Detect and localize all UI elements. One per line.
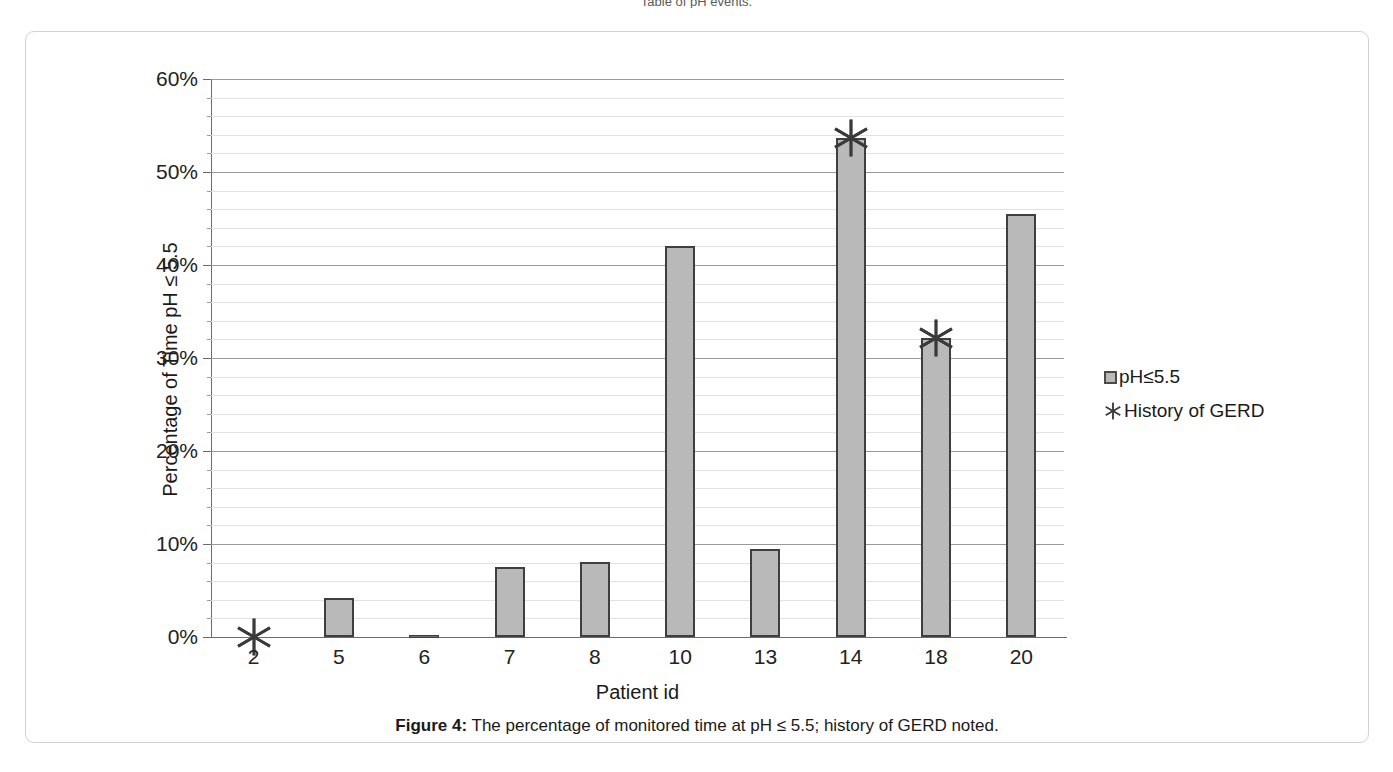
y-axis-tick-label: 30% <box>156 346 198 370</box>
square-swatch-icon <box>1104 371 1117 384</box>
x-axis-tick-label: 13 <box>754 645 777 669</box>
y-axis-tick-minor <box>207 377 211 378</box>
y-axis-tick-minor <box>207 246 211 247</box>
y-axis-tick-label: 20% <box>156 439 198 463</box>
x-axis-tick-label: 10 <box>668 645 691 669</box>
y-axis-tick-minor <box>207 153 211 154</box>
gridline-minor <box>211 135 1064 136</box>
gridline-major <box>211 265 1064 266</box>
chart-legend: pH≤5.5History of GERD <box>1104 360 1334 428</box>
x-axis-tick-label: 6 <box>418 645 430 669</box>
y-axis-tick-minor <box>207 618 211 619</box>
bar <box>1006 214 1036 637</box>
gridline-major <box>211 172 1064 173</box>
y-axis-tick-major <box>203 544 211 545</box>
gridline-minor <box>211 209 1064 210</box>
x-axis-tick-labels: 256781013141820 <box>211 645 1064 677</box>
y-axis-tick-minor <box>207 302 211 303</box>
y-axis-tick-major <box>203 79 211 80</box>
y-axis-tick-label: 10% <box>156 532 198 556</box>
y-axis-tick-minor <box>207 228 211 229</box>
y-axis-tick-minor <box>207 581 211 582</box>
gridline-minor <box>211 191 1064 192</box>
gridline-minor <box>211 302 1064 303</box>
y-axis-tick-label: 50% <box>156 160 198 184</box>
y-axis-tick-minor <box>207 395 211 396</box>
x-axis-tick-label: 7 <box>504 645 516 669</box>
y-axis-tick-major <box>203 451 211 452</box>
y-axis-tick-major <box>203 637 211 638</box>
y-axis-tick-minor <box>207 116 211 117</box>
legend-item-label: pH≤5.5 <box>1119 366 1180 388</box>
legend-item-label: History of GERD <box>1124 400 1264 422</box>
x-axis-tick-label: 5 <box>333 645 345 669</box>
y-axis-tick-minor <box>207 209 211 210</box>
gridline-major <box>211 79 1064 80</box>
y-axis-tick-label: 40% <box>156 253 198 277</box>
y-axis-tick-minor <box>207 563 211 564</box>
y-axis-tick-labels: 0%10%20%30%40%50%60% <box>118 79 198 637</box>
y-axis-tick-minor <box>207 600 211 601</box>
y-axis-tick-minor <box>207 284 211 285</box>
figure-caption: Figure 4: The percentage of monitored ti… <box>25 716 1369 736</box>
gridline-minor <box>211 153 1064 154</box>
y-axis-tick-label: 60% <box>156 67 198 91</box>
legend-item[interactable]: pH≤5.5 <box>1104 360 1334 394</box>
bar <box>921 338 951 637</box>
gridline-minor <box>211 284 1064 285</box>
bar <box>324 598 354 637</box>
y-axis-tick-minor <box>207 432 211 433</box>
y-axis-tick-label: 0% <box>168 625 198 649</box>
gridline-minor <box>211 228 1064 229</box>
bar <box>750 549 780 637</box>
x-axis-tick-label: 18 <box>924 645 947 669</box>
asterisk-icon <box>1104 402 1122 420</box>
figure-caption-text: The percentage of monitored time at pH ≤… <box>467 716 999 735</box>
y-axis-tick-major <box>203 358 211 359</box>
x-axis-line <box>211 637 1067 638</box>
y-axis-tick-major <box>203 265 211 266</box>
y-axis-tick-minor <box>207 339 211 340</box>
x-axis-title: Patient id <box>211 681 1064 704</box>
y-axis-tick-minor <box>207 191 211 192</box>
cropped-top-caption: Table of pH events. <box>0 0 1393 8</box>
gridline-minor <box>211 246 1064 247</box>
y-axis-tick-minor <box>207 135 211 136</box>
x-axis-tick-label: 14 <box>839 645 862 669</box>
y-axis-tick-minor <box>207 414 211 415</box>
bar <box>495 567 525 637</box>
bar <box>836 138 866 637</box>
y-axis-tick-minor <box>207 98 211 99</box>
gridline-minor <box>211 116 1064 117</box>
bar <box>665 246 695 637</box>
y-axis-tick-major <box>203 172 211 173</box>
y-axis-tick-minor <box>207 470 211 471</box>
y-axis-tick-minor <box>207 488 211 489</box>
y-axis-tick-minor <box>207 525 211 526</box>
y-axis-tick-minor <box>207 507 211 508</box>
plot-area <box>211 79 1064 637</box>
gridline-minor <box>211 98 1064 99</box>
x-axis-tick-label: 2 <box>248 645 260 669</box>
gerd-marker-icon <box>831 118 871 158</box>
gerd-marker-icon <box>916 318 956 358</box>
figure-caption-label: Figure 4: <box>395 716 467 735</box>
y-axis-tick-minor <box>207 321 211 322</box>
x-axis-tick-label: 8 <box>589 645 601 669</box>
bar <box>409 635 439 638</box>
bar <box>580 562 610 637</box>
legend-item[interactable]: History of GERD <box>1104 394 1334 428</box>
x-axis-tick-label: 20 <box>1010 645 1033 669</box>
